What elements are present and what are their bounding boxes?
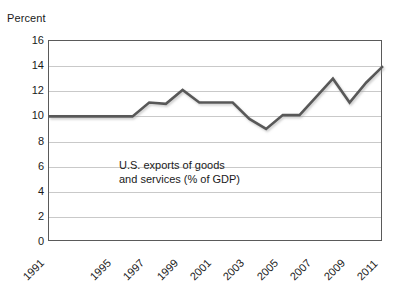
x-tick-label: 2001 [188,257,213,282]
series-annotation: U.S. exports of goods and services (% of… [119,158,240,186]
x-axis-tick-labels: 1991199519971999200120032005200720092011 [48,241,382,276]
x-tick-label: 2003 [222,257,247,282]
x-tick-label: 1999 [155,257,180,282]
series-line-exports [49,66,383,129]
y-tick-label: 0 [6,236,44,247]
y-tick-label: 2 [6,211,44,222]
y-tick-label: 8 [6,136,44,147]
x-tick-label: 1995 [88,257,113,282]
plot-area: U.S. exports of goods and services (% of… [48,40,382,241]
x-tick-label: 1997 [121,257,146,282]
x-tick-label: 2011 [355,258,380,282]
x-tick-label: 2009 [322,257,347,282]
y-tick-label: 14 [6,60,44,71]
x-tick-label: 2005 [255,257,280,282]
y-axis-tick-labels: 1614121086420 [0,40,44,241]
y-tick-label: 4 [6,186,44,197]
y-tick-label: 6 [6,161,44,172]
y-tick-label: 16 [6,35,44,46]
y-tick-label: 12 [6,85,44,96]
y-tick-label: 10 [6,110,44,121]
series-line-layer [49,41,383,242]
x-tick-label: 1991 [21,257,46,282]
y-axis-unit-label: Percent [7,12,46,24]
x-tick-label: 2007 [288,257,313,282]
series-annotation-line-1: U.S. exports of goods [119,158,240,172]
series-annotation-line-2: and services (% of GDP) [119,172,240,186]
